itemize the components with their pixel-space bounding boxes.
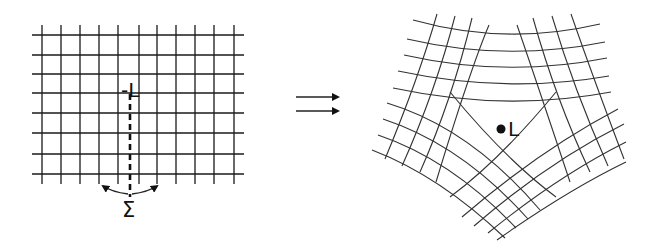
disclination-point-label: L <box>508 119 519 139</box>
transition-arrows-icon <box>296 97 338 111</box>
disclination-line-label: -L <box>121 80 139 100</box>
curved-grid-line <box>404 55 607 67</box>
curved-grid-line <box>383 119 528 219</box>
left-square-grid <box>32 25 244 184</box>
diagram-canvas <box>0 0 652 247</box>
curved-grid-line <box>462 109 618 217</box>
curved-grid-line <box>571 14 624 159</box>
curved-grid-line <box>533 18 590 172</box>
cut-surface-sigma-label: Σ <box>122 200 135 221</box>
curved-grid-line <box>398 71 609 84</box>
curved-arrow-icon <box>103 186 128 194</box>
curved-grid-line <box>450 92 556 197</box>
curved-grid-line <box>413 20 600 34</box>
curved-grid-line <box>385 14 437 159</box>
curved-arrow-icon <box>132 186 157 194</box>
disclination-point-dot <box>497 125 506 134</box>
curved-grid-line <box>450 92 556 197</box>
curved-grid-line <box>407 39 605 51</box>
